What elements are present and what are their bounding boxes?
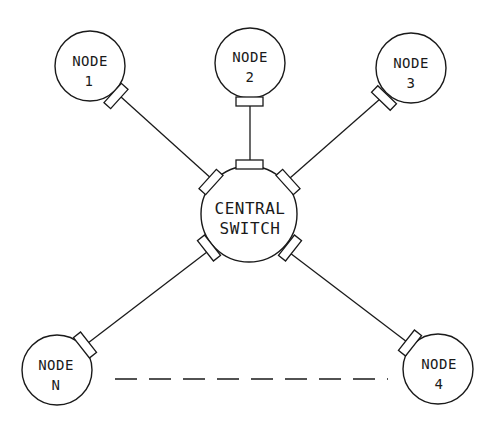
link-node-4 <box>290 253 407 342</box>
node-2-label-line1: NODE <box>232 49 268 65</box>
node-1: NODE 1 <box>55 31 128 109</box>
node-2-port <box>236 97 263 106</box>
node-2-label-line2: 2 <box>246 69 255 85</box>
node-1-label-line1: NODE <box>72 53 108 69</box>
node-n: NODE N <box>22 332 97 405</box>
node-1-label-line2: 1 <box>85 73 94 89</box>
hub-port-top <box>236 160 263 169</box>
node-3: NODE 3 <box>372 33 446 110</box>
node-4-label-line1: NODE <box>421 356 457 372</box>
central-switch-label-line2: SWITCH <box>220 219 281 238</box>
central-switch: CENTRAL SWITCH <box>197 160 301 262</box>
node-n-label-line1: NODE <box>38 357 74 373</box>
link-node-3 <box>290 99 380 178</box>
node-4: NODE 4 <box>398 330 473 404</box>
star-network-diagram: CENTRAL SWITCH NODE 1 NODE 2 NODE 3 NODE… <box>0 0 499 424</box>
link-node-n <box>88 252 207 343</box>
node-2: NODE 2 <box>215 28 285 106</box>
node-3-label-line2: 3 <box>407 75 416 91</box>
node-n-label-line2: N <box>52 377 61 393</box>
link-node-1 <box>121 97 213 180</box>
node-3-label-line1: NODE <box>393 55 429 71</box>
node-4-label-line2: 4 <box>435 376 444 392</box>
central-switch-label-line1: CENTRAL <box>215 199 286 218</box>
